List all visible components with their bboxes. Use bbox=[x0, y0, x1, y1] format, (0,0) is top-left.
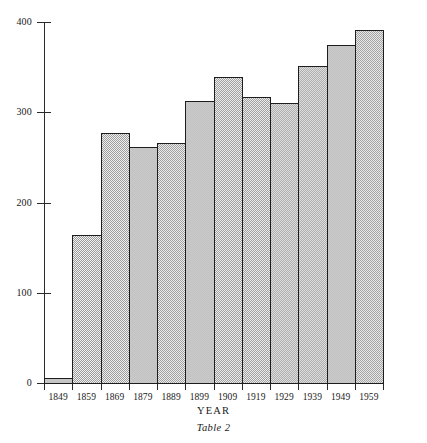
x-tick-6 bbox=[214, 384, 215, 390]
bar-1939 bbox=[298, 66, 327, 384]
figure-caption: Table 2 bbox=[0, 422, 427, 433]
y-tick-label-400: 400 bbox=[16, 17, 32, 27]
x-tick-10 bbox=[327, 384, 328, 390]
x-tick-1 bbox=[72, 384, 73, 390]
bar-1949 bbox=[327, 45, 356, 384]
y-tick-label-300: 300 bbox=[16, 107, 32, 117]
y-tick-label-0: 0 bbox=[27, 378, 32, 388]
bar-1869 bbox=[101, 133, 130, 384]
bar-1929 bbox=[270, 103, 299, 384]
bar-chart-plot: 0100200300400 18491859186918791889189919… bbox=[0, 0, 427, 443]
x-tick-5 bbox=[185, 384, 186, 390]
x-tick-2 bbox=[101, 384, 102, 390]
bar-1899 bbox=[185, 101, 214, 384]
bar-1919 bbox=[242, 97, 271, 384]
bar-1879 bbox=[129, 147, 158, 384]
x-tick-3 bbox=[129, 384, 130, 390]
bar-1909 bbox=[214, 77, 243, 384]
bar-1889 bbox=[157, 143, 186, 384]
y-tick-100 bbox=[37, 293, 51, 294]
bar-1959 bbox=[355, 30, 384, 384]
x-tick-0 bbox=[44, 384, 45, 390]
bar-1859 bbox=[72, 235, 101, 384]
x-tick-label-1959: 1959 bbox=[349, 392, 389, 403]
x-tick-11 bbox=[355, 384, 356, 390]
x-tick-9 bbox=[298, 384, 299, 390]
x-axis-title: YEAR bbox=[0, 405, 427, 416]
x-tick-7 bbox=[242, 384, 243, 390]
y-tick-label-100: 100 bbox=[16, 288, 32, 298]
bar-1849 bbox=[44, 378, 73, 384]
x-tick-12 bbox=[383, 384, 384, 390]
y-tick-200 bbox=[37, 203, 51, 204]
y-tick-label-200: 200 bbox=[16, 198, 32, 208]
x-tick-8 bbox=[270, 384, 271, 390]
x-tick-4 bbox=[157, 384, 158, 390]
y-tick-300 bbox=[37, 112, 51, 113]
y-tick-400 bbox=[37, 22, 51, 23]
figure: 0100200300400 18491859186918791889189919… bbox=[0, 0, 427, 443]
